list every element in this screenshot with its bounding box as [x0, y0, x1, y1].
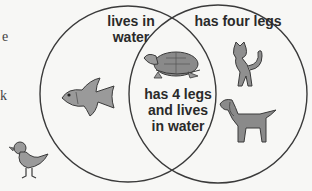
intersection-label: has 4 legs and lives in water [138, 86, 218, 134]
turtle-icon [144, 52, 200, 78]
cropped-text-e: e [2, 29, 8, 45]
intersection-line-2: and lives [138, 102, 218, 118]
lives-in-water-label: lives in water [92, 13, 170, 45]
intersection-line-1: has 4 legs [138, 86, 218, 102]
cat-icon [233, 42, 262, 86]
venn-diagram: e k lives in water has four legs has 4 l… [0, 0, 312, 191]
intersection-line-3: in water [138, 118, 218, 134]
lives-in-water-line-1: lives in [92, 13, 170, 29]
chick-icon [9, 142, 48, 178]
cropped-text-k: k [0, 88, 7, 104]
has-four-legs-label: has four legs [180, 13, 296, 29]
goldfish-icon [62, 78, 114, 116]
lives-in-water-line-2: water [92, 29, 170, 45]
dog-icon [220, 100, 276, 143]
